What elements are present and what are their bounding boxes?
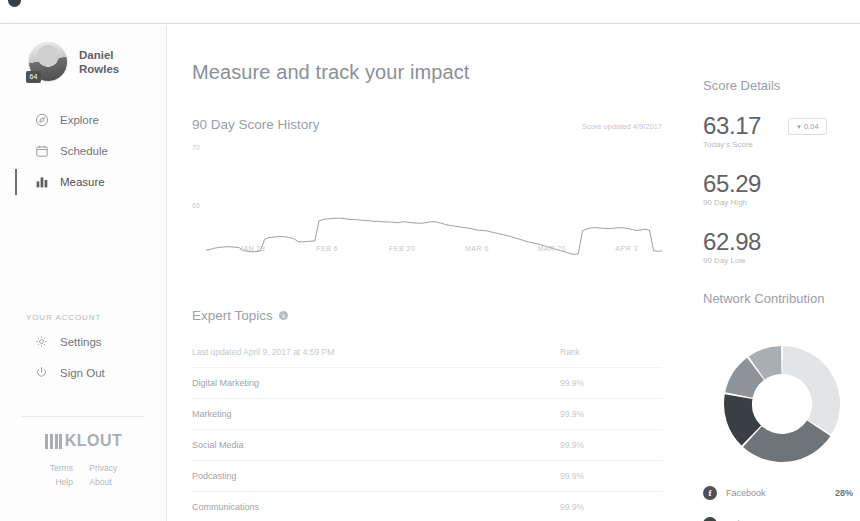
footer-link-about[interactable]: About	[89, 477, 111, 487]
legend-name: Facebook	[726, 488, 835, 498]
klout-measure-page: 64 Daniel Rowles Explore	[0, 0, 860, 521]
top-header-bar	[0, 0, 860, 24]
sidebar-item-label: Explore	[60, 114, 99, 126]
score-delta-badge[interactable]: ▼0.04	[788, 118, 827, 135]
right-rail: Score Details 63.17 Today's Score ▼0.04 …	[525, 25, 860, 521]
topic-name: Communications	[192, 492, 542, 521]
compass-icon	[34, 112, 49, 127]
sidebar-item-measure[interactable]: Measure	[0, 166, 166, 197]
brand-name: KLOUT	[65, 432, 123, 450]
high-value: 65.29	[703, 171, 761, 197]
network-donut-chart[interactable]	[721, 343, 843, 465]
stat-90-day-high: 65.29 90 Day High	[703, 171, 761, 207]
legend-row[interactable]: tTwitter34%	[703, 508, 853, 521]
profile-first-name: Daniel	[79, 48, 119, 62]
stat-90-day-low: 62.98 90 Day Low	[703, 229, 761, 265]
network-legend: fFacebook28%tTwitter34%	[703, 477, 853, 521]
info-icon[interactable]: i	[279, 311, 288, 320]
footer-link-privacy[interactable]: Privacy	[89, 463, 117, 473]
legend-percent: 28%	[835, 488, 853, 498]
x-axis-tick: FEB 20	[389, 245, 415, 252]
power-icon	[34, 365, 49, 380]
klout-logo: KLOUT	[45, 432, 123, 450]
twitter-icon: t	[703, 517, 717, 521]
sidebar-item-settings[interactable]: Settings	[0, 326, 167, 357]
gear-icon	[34, 334, 49, 349]
sidebar: 64 Daniel Rowles Explore	[0, 25, 167, 521]
brand-footer: KLOUT Terms Privacy Help About	[0, 432, 167, 489]
profile-name: Daniel Rowles	[79, 48, 119, 76]
topics-last-updated: Last updated April 9, 2017 at 4:59 PM	[192, 337, 542, 368]
y-axis-tick-70: 70	[192, 144, 200, 151]
klout-mark-icon	[45, 434, 62, 449]
sidebar-item-explore[interactable]: Explore	[0, 104, 166, 135]
avatar-wrap: 64	[28, 42, 68, 82]
score-badge: 64	[26, 71, 41, 83]
expert-topics-title: Expert Topics	[192, 308, 273, 323]
score-stats: 63.17 Today's Score ▼0.04 65.29 90 Day H…	[703, 113, 761, 287]
user-profile[interactable]: 64 Daniel Rowles	[0, 25, 166, 82]
page-title: Measure and track your impact	[192, 61, 469, 84]
account-section-label: YOUR ACCOUNT	[26, 313, 167, 322]
sidebar-item-label: Measure	[60, 176, 105, 188]
sidebar-divider	[22, 416, 144, 417]
topic-name: Marketing	[192, 399, 542, 430]
legend-row[interactable]: fFacebook28%	[703, 477, 853, 508]
score-history-title: 90 Day Score History	[192, 117, 320, 132]
x-axis-tick: JAN 23	[239, 245, 265, 252]
delta-down-arrow-icon: ▼	[796, 124, 802, 130]
low-value: 62.98	[703, 229, 761, 255]
today-score-label: Today's Score	[703, 140, 761, 149]
topic-name: Social Media	[192, 430, 542, 461]
sidebar-item-label: Sign Out	[60, 367, 105, 379]
footer-link-terms[interactable]: Terms	[50, 463, 73, 473]
today-score-value: 63.17	[703, 113, 761, 139]
score-details-title: Score Details	[703, 78, 780, 93]
footer-link-help[interactable]: Help	[55, 477, 72, 487]
sidebar-item-sign-out[interactable]: Sign Out	[0, 357, 167, 388]
profile-last-name: Rowles	[79, 62, 119, 76]
footer-links: Terms Privacy Help About	[0, 461, 167, 489]
app-logo-icon[interactable]	[8, 0, 21, 7]
donut-segment[interactable]	[783, 346, 840, 434]
calendar-icon	[34, 143, 49, 158]
topic-name: Digital Marketing	[192, 368, 542, 399]
high-label: 90 Day High	[703, 198, 761, 207]
x-axis-tick: FEB 6	[316, 245, 338, 252]
delta-value: 0.04	[804, 122, 819, 131]
low-label: 90 Day Low	[703, 256, 761, 265]
bar-chart-icon	[34, 174, 49, 189]
stat-today-score: 63.17 Today's Score ▼0.04	[703, 113, 761, 149]
network-contribution-title: Network Contribution	[703, 291, 824, 306]
x-axis-tick: MAR 6	[465, 245, 489, 252]
sidebar-item-label: Schedule	[60, 145, 108, 157]
topic-name: Podcasting	[192, 461, 542, 492]
sidebar-item-schedule[interactable]: Schedule	[0, 135, 166, 166]
sidebar-item-label: Settings	[60, 336, 102, 348]
y-axis-tick-65: 65	[192, 202, 200, 209]
account-section: YOUR ACCOUNT Settings Sign Out	[0, 313, 167, 388]
facebook-icon: f	[703, 486, 717, 500]
main-nav: Explore Schedule	[0, 104, 166, 197]
